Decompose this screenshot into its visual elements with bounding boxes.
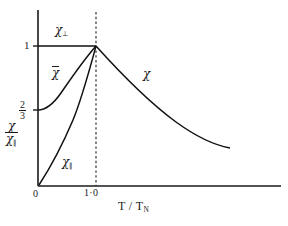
y-axis-title-fraction: χ χ∥ bbox=[5, 120, 18, 146]
x-axis-title-denominator-base: T bbox=[136, 199, 144, 213]
curve-label-chi-parallel: χ∥ bbox=[62, 156, 73, 169]
x-axis-title-slash: / bbox=[126, 199, 136, 213]
curve-chi-paramagnetic bbox=[96, 46, 230, 148]
x-axis-title-denominator-subscript: N bbox=[144, 205, 149, 214]
x-tick-label-zero: 0 bbox=[33, 189, 38, 199]
curve-label-chi-perp: χ⊥ bbox=[55, 24, 68, 37]
x-axis-title-numerator: T bbox=[118, 199, 126, 213]
susceptibility-figure: 1 2 3 0 1·0 χ χ∥ T/TN χ⊥ χ χ∥ χ bbox=[0, 0, 288, 226]
y-axis-title-denominator: χ∥ bbox=[5, 133, 18, 146]
curve-label-chi-bar-glyph: χ bbox=[52, 66, 59, 79]
curve-label-chi-perp-subscript: ⊥ bbox=[62, 29, 68, 38]
y-tick-label-two-thirds: 2 3 bbox=[19, 100, 26, 121]
y-axis-title-numerator: χ bbox=[5, 120, 18, 133]
plot-canvas bbox=[0, 0, 288, 226]
fraction-denominator: 3 bbox=[19, 111, 26, 121]
y-axis-title-denominator-subscript: ∥ bbox=[13, 138, 17, 147]
fraction-two-thirds: 2 3 bbox=[19, 100, 26, 121]
x-axis-title: T/TN bbox=[118, 200, 149, 213]
x-tick-label-one: 1·0 bbox=[84, 188, 98, 198]
y-tick-label-one: 1 bbox=[24, 40, 30, 51]
y-axis-title: χ χ∥ bbox=[5, 120, 18, 146]
curve-label-chi-bar: χ bbox=[52, 66, 59, 79]
curve-label-chi-glyph: χ bbox=[143, 67, 150, 81]
curve-label-chi: χ bbox=[143, 68, 150, 80]
curve-label-chi-parallel-subscript: ∥ bbox=[69, 161, 73, 170]
